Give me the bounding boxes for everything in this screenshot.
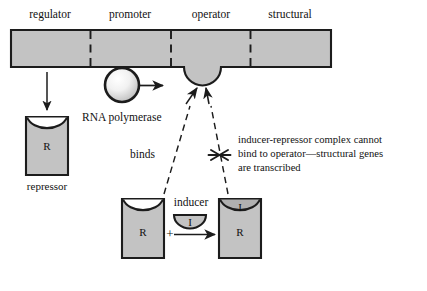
rna-polymerase-label: RNA polymerase — [82, 111, 162, 125]
segment-label-promoter: promoter — [109, 8, 151, 22]
blocked-x-icon — [209, 150, 231, 160]
inducer-label: inducer — [174, 196, 208, 210]
bound-repressor-letter: R — [236, 226, 243, 239]
annotation-line-3: are transcribed — [238, 161, 424, 175]
dna-strand-group — [11, 30, 331, 86]
free-repressor-letter: R — [139, 226, 146, 239]
blocked-dashed-line — [211, 106, 228, 194]
segment-label-structural: structural — [268, 8, 311, 22]
operator-binding-arrows — [186, 88, 209, 104]
inducer-shape-letter: I — [188, 216, 192, 229]
operon-diagram: regulator promoter operator structural R… — [0, 0, 427, 291]
rna-polymerase-shape — [105, 68, 163, 102]
annotation-line-1: inducer-repressor complex cannot — [238, 133, 424, 147]
repressor-caption: repressor — [27, 180, 67, 193]
segment-label-operator: operator — [192, 8, 230, 22]
plus-sign: + — [166, 226, 173, 241]
binds-label: binds — [130, 148, 155, 162]
annotation-text: inducer-repressor complex cannot bind to… — [238, 133, 424, 174]
repressor-shape-letter: R — [43, 140, 50, 153]
annotation-line-2: bind to operator—structural genes — [238, 147, 424, 161]
binds-dashed-line — [164, 106, 190, 194]
segment-label-regulator: regulator — [29, 8, 71, 22]
bound-inducer-letter: I — [238, 201, 242, 214]
